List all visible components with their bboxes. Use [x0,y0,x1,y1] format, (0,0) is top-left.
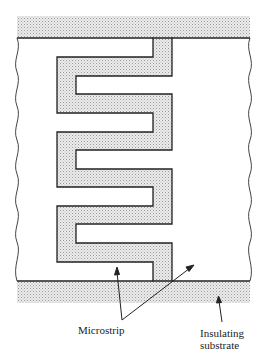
substrate-label-line2: substrate [200,339,239,351]
meander-microstrip [57,38,172,281]
bottom-ground-band [17,281,250,303]
left-break-edge [16,38,19,281]
microstrip-diagram [0,0,267,360]
top-ground-band [17,16,250,38]
right-break-edge [249,38,252,281]
substrate-label-line1: Insulating [200,327,244,339]
microstrip-label: Microstrip [78,324,124,336]
